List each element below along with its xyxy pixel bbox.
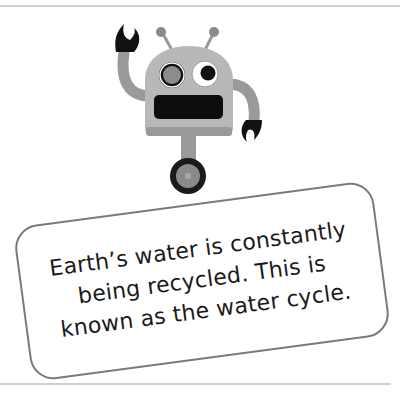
left-antenna-ball xyxy=(156,27,166,37)
robot-illustration xyxy=(0,0,403,210)
robot-head xyxy=(145,46,233,136)
fact-text: Earth’s water is constantly being recycl… xyxy=(47,213,356,345)
left-claw-icon xyxy=(115,24,139,52)
right-claw-icon xyxy=(242,120,262,142)
bottom-divider xyxy=(0,383,391,385)
fact-card: Earth’s water is constantly being recycl… xyxy=(12,180,391,383)
robot-mouth xyxy=(154,95,223,119)
right-antenna-ball xyxy=(209,27,219,37)
